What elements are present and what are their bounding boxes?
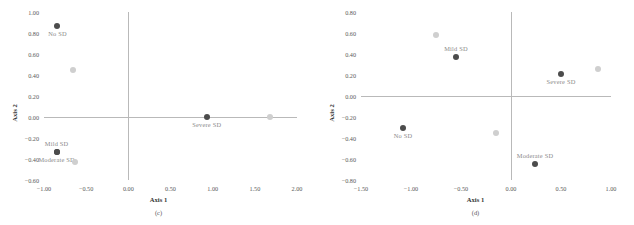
- y-axis-tick-label: 0.80: [345, 9, 356, 16]
- y-axis-tick-label: 1.00: [28, 9, 39, 16]
- x-axis-tick-label: −1.00: [404, 185, 418, 192]
- figure-container: Axis 2 1.000.800.600.400.200.00−0.20−0.4…: [0, 0, 634, 225]
- x-axis-title-d: Axis 1: [317, 196, 634, 203]
- y-axis-tick-label: −0.60: [342, 156, 356, 163]
- data-point-label: Severe SD: [547, 78, 576, 85]
- y-axis-tick-label: −0.80: [342, 177, 356, 184]
- x-axis-tick-label: 0.50: [556, 185, 567, 192]
- y-axis-tick-label: 0.20: [345, 72, 356, 79]
- scatter-panel-c: Axis 2 1.000.800.600.400.200.00−0.20−0.4…: [0, 0, 317, 225]
- x-axis-tick-label: 2.00: [292, 185, 303, 192]
- plot-area-c: 1.000.800.600.400.200.00−0.20−0.40−0.60−…: [44, 12, 297, 180]
- data-point-label: Mild SD: [444, 45, 468, 52]
- data-point-mild-sd: [453, 54, 459, 60]
- y-axis-tick-label: 0.20: [28, 93, 39, 100]
- data-point-label: No SD: [394, 132, 413, 139]
- y-axis-tick-label: −0.20: [342, 114, 356, 121]
- data-point-label: Moderate SD: [38, 156, 74, 163]
- y-axis-tick-label: −0.60: [25, 177, 39, 184]
- data-point-no-sd: [54, 23, 60, 29]
- data-point: [433, 32, 439, 38]
- y-axis-tick-label: −0.20: [25, 135, 39, 142]
- x-axis-title-c: Axis 1: [0, 196, 317, 203]
- data-point-label: Moderate SD: [517, 152, 553, 159]
- data-point-label: Mild SD: [45, 140, 69, 147]
- data-point-moderate-sd: [54, 149, 60, 155]
- data-point: [493, 130, 499, 136]
- x-axis-tick-label: 1.50: [249, 185, 260, 192]
- data-point-severe-sd: [558, 71, 564, 77]
- x-axis-tick-label: 1.00: [207, 185, 218, 192]
- panel-caption-d: (d): [317, 209, 634, 216]
- y-axis-tick-label: 0.60: [28, 51, 39, 58]
- y-axis-tick-label: 0.60: [345, 30, 356, 37]
- horizontal-axis-line-c: [44, 117, 297, 118]
- data-point-severe-sd: [204, 114, 210, 120]
- x-axis-tick-label: −1.00: [37, 185, 51, 192]
- data-point: [70, 67, 76, 73]
- data-point: [72, 159, 78, 165]
- y-axis-title-c: Axis 2: [11, 104, 18, 121]
- data-point: [267, 114, 273, 120]
- vertical-axis-line-c: [128, 12, 129, 180]
- vertical-axis-line-d: [511, 12, 512, 180]
- panel-caption-c: (c): [0, 209, 317, 216]
- x-axis-tick-label: 0.50: [165, 185, 176, 192]
- data-point-label: No SD: [48, 30, 67, 37]
- y-axis-tick-label: 0.40: [345, 51, 356, 58]
- data-point-label: Severe SD: [192, 121, 221, 128]
- x-axis-tick-label: −0.50: [454, 185, 468, 192]
- y-axis-tick-label: 0.00: [28, 114, 39, 121]
- y-axis-tick-label: −0.40: [25, 156, 39, 163]
- x-axis-tick-label: 1.00: [606, 185, 617, 192]
- y-axis-title-d: Axis 2: [328, 104, 335, 121]
- y-axis-tick-label: 0.00: [345, 93, 356, 100]
- x-axis-tick-label: 0.00: [123, 185, 134, 192]
- y-axis-tick-label: 0.40: [28, 72, 39, 79]
- plot-area-d: 0.800.600.400.200.00−0.20−0.40−0.60−0.80…: [361, 12, 611, 180]
- horizontal-axis-line-d: [361, 96, 611, 97]
- data-point-moderate-sd: [532, 161, 538, 167]
- data-point-no-sd: [400, 125, 406, 131]
- data-point: [595, 66, 601, 72]
- x-axis-tick-label: −1.50: [354, 185, 368, 192]
- y-axis-tick-label: −0.40: [342, 135, 356, 142]
- y-axis-tick-label: 0.80: [28, 30, 39, 37]
- x-axis-tick-label: −0.50: [79, 185, 93, 192]
- x-axis-tick-label: 0.00: [506, 185, 517, 192]
- scatter-panel-d: Axis 2 0.800.600.400.200.00−0.20−0.40−0.…: [317, 0, 634, 225]
